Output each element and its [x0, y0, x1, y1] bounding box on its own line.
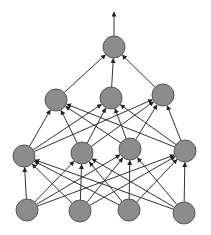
- input-node-3: [118, 199, 140, 221]
- edge-arrow: [64, 55, 105, 93]
- output-node-1: [103, 36, 125, 58]
- edge-arrow: [80, 164, 81, 200]
- edge-arrow: [67, 104, 175, 147]
- hidden-2-node-1: [45, 89, 67, 111]
- edge-arrow: [167, 106, 181, 141]
- edge-arrow: [112, 58, 114, 87]
- edge-arrow: [136, 105, 157, 140]
- hidden-1-node-3: [119, 138, 141, 160]
- input-node-2: [69, 200, 91, 222]
- edge-arrow: [35, 161, 74, 202]
- edge-arrow: [89, 162, 122, 202]
- edge-arrow: [91, 102, 154, 147]
- edge-arrow: [25, 167, 27, 199]
- edge-arrow: [184, 162, 185, 202]
- network-canvas: [0, 0, 211, 235]
- hidden-1-node-2: [71, 142, 93, 164]
- edge-arrow: [122, 55, 155, 87]
- neural-network-diagram: [0, 0, 211, 235]
- hidden-1-node-4: [174, 140, 196, 162]
- hidden-2-node-2: [100, 87, 122, 109]
- input-node-4: [173, 202, 195, 224]
- hidden-1-node-1: [13, 145, 35, 167]
- input-node-1: [16, 199, 38, 221]
- edge-arrow: [90, 157, 175, 206]
- hidden-2-node-3: [152, 84, 174, 106]
- edge-arrow: [33, 104, 101, 150]
